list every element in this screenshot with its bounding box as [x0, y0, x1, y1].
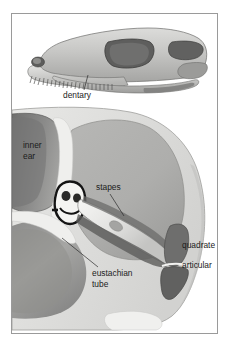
- label-stapes: stapes: [96, 182, 121, 192]
- skull-illustration: [28, 28, 208, 93]
- anatomical-figure: dentary: [0, 0, 230, 347]
- figure-canvas: dentary: [12, 14, 217, 333]
- skull-nostril-highlight: [33, 58, 41, 64]
- label-inner-ear-line1: inner: [23, 140, 42, 150]
- skull-temporal-fenestra: [168, 41, 203, 60]
- oval-window-upper: [62, 191, 71, 201]
- label-dentary: dentary: [63, 90, 92, 100]
- label-quadrate: quadrate: [182, 240, 215, 250]
- label-eustachian-line2: tube: [92, 279, 109, 289]
- skull-orbit-inner: [110, 43, 149, 66]
- label-inner-ear-line2: ear: [23, 151, 35, 161]
- figure-frame: dentary: [11, 13, 218, 334]
- label-articular: articular: [182, 260, 212, 270]
- skull-quadrate-region: [178, 63, 208, 79]
- label-eustachian-line1: eustachian: [92, 268, 133, 278]
